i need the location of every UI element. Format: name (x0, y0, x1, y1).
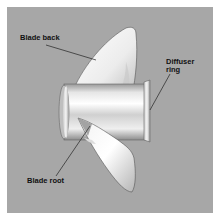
label-diffuser-line2: ring (166, 66, 194, 74)
blade-back-leader (46, 45, 96, 60)
label-diffuser-ring: Diffuser ring (166, 58, 194, 74)
label-blade-back: Blade back (20, 34, 60, 42)
label-blade-root: Blade root (27, 177, 64, 185)
diffuser-ring-leader (150, 74, 170, 110)
diffuser-ring (144, 80, 150, 142)
